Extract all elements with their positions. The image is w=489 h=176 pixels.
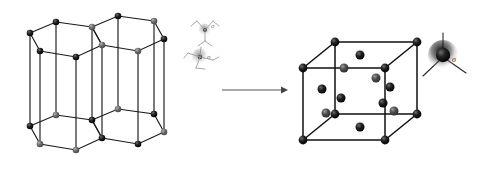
lattice-atom [89,117,96,124]
lattice-atom [135,141,142,148]
lattice-atom [99,135,106,142]
corner-atom [299,64,308,73]
corner-atom [413,38,422,47]
face-centre-atom [340,64,349,73]
lattice-atom [37,141,44,148]
lattice-atom [73,54,80,61]
corner-atom [331,110,340,119]
face-centre-atom [356,123,365,132]
sigma-symbol-left: σ [211,22,215,30]
lattice-atom [99,42,106,49]
face-centre-atom [390,107,399,116]
face-centre-atom [379,99,388,108]
corner-atom [413,110,422,119]
lattice-atom [73,147,80,154]
crystal-structure-figure: σ σ [0,0,489,176]
lattice-atom [135,48,142,55]
figure-canvas: σ σ [0,0,489,176]
face-centre-atom [337,94,346,103]
corner-atom [331,38,340,47]
corner-atom [381,136,390,145]
face-centre-atom [356,51,365,60]
sigma-symbol-left-lower: σ [207,53,211,61]
lattice-atom [27,30,34,37]
orbital-core-icon [436,48,450,62]
lattice-atom [151,18,158,25]
lattice-atom [161,129,168,136]
face-centre-atom [386,83,395,92]
lattice-atom [53,19,60,26]
corner-atom [381,64,390,73]
lattice-atom [115,13,122,20]
lattice-atom [27,123,34,130]
lattice-atom [53,112,60,119]
lattice-atom [161,36,168,43]
lattice-atom [89,24,96,31]
corner-atom [299,136,308,145]
lattice-atom [37,48,44,55]
face-centre-atom [322,109,331,118]
face-centre-atom [372,74,381,83]
lattice-atom [151,111,158,118]
face-centre-atom [318,85,327,94]
lattice-atom [115,106,122,113]
